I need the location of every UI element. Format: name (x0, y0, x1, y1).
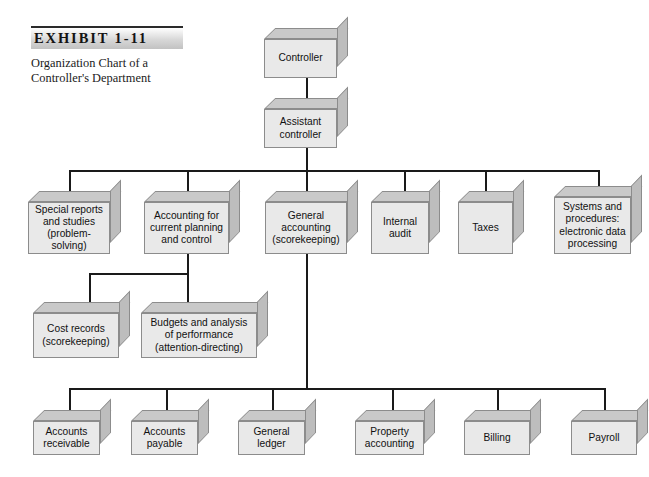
node-accounts-receivable-side-face (100, 399, 111, 444)
connector-drop-taxes (485, 170, 487, 192)
node-accounts-receivable[interactable]: Accounts receivable (33, 410, 111, 455)
connector-drop-general-ledger (272, 388, 274, 411)
node-taxes-front-face: Taxes (458, 202, 513, 254)
node-assistant-controller-side-face (337, 87, 348, 137)
connector-drop-accounts-receivable (69, 388, 71, 411)
exhibit-caption: Organization Chart of a Controller's Dep… (31, 56, 183, 85)
node-internal-audit-side-face (429, 180, 440, 243)
node-budgets-analysis-front-face: Budgets and analysis of performance (att… (141, 313, 257, 358)
node-accounting-planning-front-face: Accounting for current planning and cont… (144, 202, 229, 254)
node-property-accounting-front-face: Property accounting (355, 421, 424, 455)
node-controller[interactable]: Controller (264, 28, 348, 78)
node-systems-procedures-front-face: Systems and procedures: electronic data … (554, 197, 631, 254)
node-systems-procedures-label: Systems and procedures: electronic data … (556, 201, 628, 250)
node-accounting-planning-top-face (144, 191, 240, 202)
node-property-accounting[interactable]: Property accounting (355, 410, 435, 455)
connector-accounting-planning-drop (187, 247, 189, 303)
connector-drop-general-accounting (306, 170, 308, 192)
node-accounts-payable[interactable]: Accounts payable (131, 410, 209, 455)
connector-drop-payroll (604, 388, 606, 411)
connector-drop-property-accounting (392, 388, 394, 411)
node-assistant-controller-label: Assistant controller (277, 116, 325, 140)
exhibit-label-band: EXHIBIT 1-11 (31, 28, 183, 49)
node-accounting-planning-label: Accounting for current planning and cont… (147, 210, 226, 247)
node-property-accounting-label: Property accounting (362, 426, 417, 450)
node-general-accounting-top-face (265, 191, 358, 202)
node-controller-side-face (337, 17, 348, 67)
node-assistant-controller[interactable]: Assistant controller (264, 98, 348, 148)
node-general-accounting-side-face (347, 180, 358, 243)
node-general-ledger-front-face: General ledger (238, 421, 305, 455)
node-controller-front-face: Controller (264, 39, 337, 78)
node-general-accounting-front-face: General accounting (scorekeeping) (265, 202, 347, 254)
node-internal-audit[interactable]: Internal audit (371, 191, 440, 254)
node-accounts-payable-side-face (198, 399, 209, 444)
connector-level5-bus (69, 388, 606, 390)
node-billing-label: Billing (480, 432, 513, 444)
node-budgets-analysis-label: Budgets and analysis of performance (att… (148, 317, 251, 354)
node-accounting-planning[interactable]: Accounting for current planning and cont… (144, 191, 240, 254)
connector-drop-accounts-payable (166, 388, 168, 411)
exhibit-number-label: EXHIBIT 1-11 (31, 30, 148, 47)
node-assistant-controller-front-face: Assistant controller (264, 109, 337, 148)
node-accounts-receivable-label: Accounts receivable (40, 426, 92, 450)
node-general-accounting-label: General accounting (scorekeeping) (269, 210, 342, 247)
connector-drop-accounting-planning (187, 170, 189, 192)
node-general-ledger[interactable]: General ledger (238, 410, 316, 455)
node-cost-records-label: Cost records (scorekeeping) (39, 323, 112, 347)
node-payroll[interactable]: Payroll (571, 410, 648, 455)
connector-level3-bus (69, 170, 600, 172)
connector-drop-billing (497, 388, 499, 411)
node-payroll-label: Payroll (585, 432, 622, 444)
node-payroll-front-face: Payroll (571, 421, 637, 455)
node-budgets-analysis-top-face (141, 302, 268, 313)
node-accounts-payable-front-face: Accounts payable (131, 421, 198, 455)
node-cost-records[interactable]: Cost records (scorekeeping) (33, 302, 130, 358)
node-billing-front-face: Billing (464, 421, 530, 455)
node-assistant-controller-top-face (264, 98, 348, 109)
node-controller-label: Controller (275, 52, 325, 64)
node-budgets-analysis-side-face (257, 291, 268, 347)
node-systems-procedures-top-face (554, 186, 642, 197)
node-budgets-analysis[interactable]: Budgets and analysis of performance (att… (141, 302, 268, 358)
node-general-ledger-label: General ledger (250, 426, 292, 450)
connector-assistant-drop (306, 148, 308, 171)
connector-drop-internal-audit (404, 170, 406, 192)
node-accounts-payable-label: Accounts payable (141, 426, 189, 450)
node-systems-procedures-side-face (631, 175, 642, 243)
node-special-reports-front-face: Special reports and studies (problem-sol… (28, 202, 110, 254)
node-accounting-planning-side-face (229, 180, 240, 243)
connector-drop-cost-records (89, 273, 91, 303)
node-internal-audit-label: Internal audit (380, 216, 420, 240)
node-billing[interactable]: Billing (464, 410, 541, 455)
node-accounts-receivable-front-face: Accounts receivable (33, 421, 100, 455)
exhibit-organization-chart: EXHIBIT 1-11 Organization Chart of a Con… (0, 0, 649, 477)
node-special-reports-side-face (110, 180, 121, 243)
node-cost-records-top-face (33, 302, 130, 313)
node-special-reports[interactable]: Special reports and studies (problem-sol… (28, 191, 121, 254)
node-taxes[interactable]: Taxes (458, 191, 524, 254)
node-cost-records-front-face: Cost records (scorekeeping) (33, 313, 119, 358)
node-controller-top-face (264, 28, 348, 39)
connector-drop-special-reports (69, 170, 71, 192)
connector-level4-branch (89, 273, 189, 275)
node-cost-records-side-face (119, 291, 130, 347)
connector-general-accounting-drop (306, 247, 308, 390)
node-systems-procedures[interactable]: Systems and procedures: electronic data … (554, 186, 642, 254)
node-taxes-label: Taxes (469, 222, 502, 234)
node-property-accounting-side-face (424, 399, 435, 444)
node-general-ledger-side-face (305, 399, 316, 444)
node-internal-audit-front-face: Internal audit (371, 202, 429, 254)
node-special-reports-top-face (28, 191, 121, 202)
node-billing-side-face (530, 399, 541, 444)
node-special-reports-label: Special reports and studies (problem-sol… (29, 204, 109, 253)
exhibit-title-block: EXHIBIT 1-11 Organization Chart of a Con… (31, 26, 183, 85)
node-general-accounting[interactable]: General accounting (scorekeeping) (265, 191, 358, 254)
node-taxes-side-face (513, 180, 524, 243)
node-payroll-side-face (637, 399, 648, 444)
